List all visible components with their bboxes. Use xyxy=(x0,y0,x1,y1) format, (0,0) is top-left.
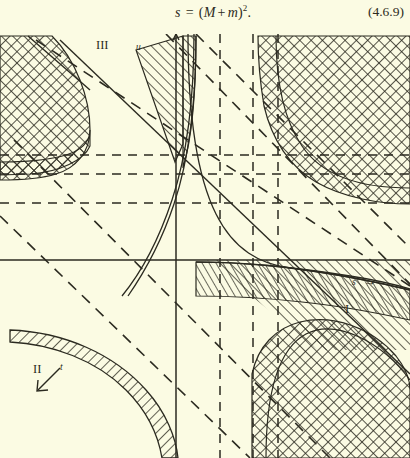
equation-plus: + xyxy=(218,5,226,20)
equation-row: s=(M+m)2. (4.6.9) xyxy=(0,2,410,28)
equation-body: s=(M+m)2. xyxy=(175,3,251,21)
region-label-I: I xyxy=(345,302,349,317)
region-II-hatched xyxy=(10,330,178,458)
region-I-wedge-visible xyxy=(207,260,410,350)
axis-label-t: t xyxy=(60,362,63,372)
axis-label-u: u xyxy=(136,42,141,52)
axis-arrow-s: → xyxy=(364,274,376,289)
region-crosshatch-upper-right xyxy=(258,36,410,204)
diagram-svg xyxy=(0,34,410,458)
mandelstam-diagram: III u I s → II t xyxy=(0,34,410,458)
equation-equals: = xyxy=(186,5,194,20)
region-label-III: III xyxy=(96,38,109,53)
equation-m: m xyxy=(228,5,238,20)
equation-lhs: s xyxy=(175,5,181,20)
figure-page: s=(M+m)2. (4.6.9) xyxy=(0,0,410,458)
equation-number: (4.6.9) xyxy=(368,4,404,20)
region-label-II: II xyxy=(33,362,41,377)
equation-period: . xyxy=(248,5,252,20)
axis-label-s: s xyxy=(352,277,356,287)
equation-M: M xyxy=(204,5,216,20)
